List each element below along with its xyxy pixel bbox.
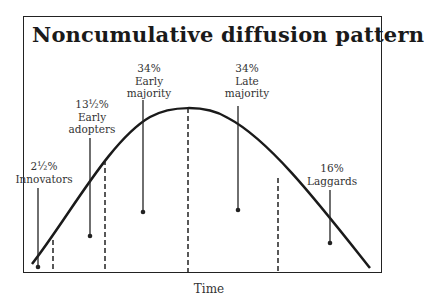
innovators-percent: 2½% (15, 160, 72, 173)
label-early-adopters: 13½% Early adopters (69, 98, 116, 136)
early-majority-name-line2: majority (127, 87, 171, 100)
label-laggards: 16% Laggards (307, 162, 357, 187)
early-adopters-percent: 13½% (69, 98, 116, 111)
innovators-name: Innovators (15, 173, 72, 186)
early-adopters-name-line1: Early (69, 111, 116, 124)
laggards-percent: 16% (307, 162, 357, 175)
x-axis-label: Time (194, 282, 224, 296)
late-majority-name-line2: majority (225, 87, 269, 100)
laggards-name: Laggards (307, 175, 357, 188)
late-majority-name-line1: Late (225, 75, 269, 88)
label-late-majority: 34% Late majority (225, 62, 269, 100)
label-early-majority: 34% Early majority (127, 62, 171, 100)
label-innovators: 2½% Innovators (15, 160, 72, 185)
late-majority-percent: 34% (225, 62, 269, 75)
early-majority-name-line1: Early (127, 75, 171, 88)
early-adopters-name-line2: adopters (69, 123, 116, 136)
label-dots (36, 208, 333, 270)
early-majority-percent: 34% (127, 62, 171, 75)
